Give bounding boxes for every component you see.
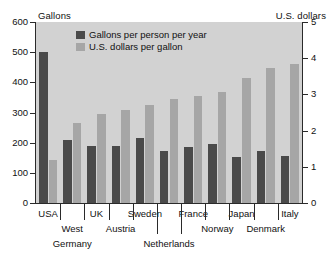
category-label-usa: USA	[38, 209, 58, 219]
gasoline-consumption-price-chart: Gallons U.S. dollars 0100200300400500600…	[0, 0, 330, 265]
bar-gallons-norway	[208, 144, 217, 203]
category-separator	[109, 204, 110, 220]
bar-dollars-usa	[49, 160, 58, 203]
left-tick-500	[30, 52, 35, 53]
category-label-japan: Japan	[229, 209, 255, 219]
right-tick-0	[303, 203, 308, 204]
left-ticklabel-300: 300	[12, 108, 28, 118]
right-ticklabel-5: 5	[311, 17, 316, 27]
legend-label-gallons: Gallons per person per year	[89, 30, 207, 40]
bar-dollars-france	[194, 96, 203, 203]
legend-item-dollars: U.S. dollars per gallon	[76, 41, 207, 52]
right-ticklabel-3: 3	[311, 89, 316, 99]
bar-dollars-denmark	[266, 68, 275, 203]
bar-gallons-west-germany	[63, 140, 72, 203]
category-separator	[254, 204, 255, 220]
right-tick-1	[303, 167, 308, 168]
left-axis-spine	[35, 22, 36, 204]
left-axis-caption: Gallons	[38, 10, 71, 21]
left-tick-100	[30, 173, 35, 174]
bar-gallons-austria	[112, 146, 121, 203]
bar-dollars-italy	[290, 64, 299, 203]
category-label-italy: Italy	[281, 209, 298, 219]
right-tick-5	[303, 22, 308, 23]
bar-gallons-sweden	[136, 138, 145, 203]
bar-gallons-usa	[39, 52, 48, 203]
category-separator	[84, 204, 85, 220]
category-separator	[229, 204, 230, 220]
left-tick-300	[30, 113, 35, 114]
left-tick-400	[30, 82, 35, 83]
category-label-netherlands: Netherlands	[143, 239, 194, 249]
category-separator	[181, 204, 182, 234]
category-label-west: West	[62, 224, 83, 234]
category-label-denmark: Denmark	[246, 224, 285, 234]
left-tick-600	[30, 22, 35, 23]
category-label-austria: Austria	[106, 224, 136, 234]
category-separator	[157, 204, 158, 234]
chart-legend: Gallons per person per year U.S. dollars…	[76, 29, 207, 53]
category-label-france: France	[178, 209, 208, 219]
right-ticklabel-4: 4	[311, 53, 316, 63]
left-ticklabel-600: 600	[12, 17, 28, 27]
legend-label-dollars: U.S. dollars per gallon	[89, 42, 182, 52]
bar-dollars-uk	[97, 114, 106, 203]
left-ticklabel-500: 500	[12, 47, 28, 57]
right-tick-4	[303, 58, 308, 59]
left-tick-200	[30, 143, 35, 144]
bar-gallons-italy	[281, 156, 290, 203]
legend-swatch-dark	[76, 31, 85, 39]
bar-gallons-france	[184, 147, 193, 203]
category-separator	[205, 204, 206, 220]
bar-dollars-west-germany	[73, 123, 82, 203]
legend-item-gallons: Gallons per person per year	[76, 29, 207, 40]
left-ticklabel-200: 200	[12, 138, 28, 148]
right-ticklabel-0: 0	[311, 198, 316, 208]
category-separator	[278, 204, 279, 220]
bar-gallons-denmark	[257, 151, 266, 203]
bar-dollars-japan	[242, 78, 251, 203]
bar-dollars-sweden	[145, 105, 154, 203]
left-ticklabel-400: 400	[12, 77, 28, 87]
bar-gallons-netherlands	[160, 151, 169, 203]
right-tick-3	[303, 94, 308, 95]
right-axis-spine	[302, 22, 303, 204]
legend-swatch-light	[76, 43, 85, 51]
left-tick-0	[30, 203, 35, 204]
left-ticklabel-100: 100	[12, 168, 28, 178]
bar-dollars-austria	[121, 110, 130, 203]
right-ticklabel-1: 1	[311, 162, 316, 172]
category-separator	[133, 204, 134, 220]
bar-dollars-norway	[218, 92, 227, 203]
bar-gallons-japan	[232, 157, 241, 203]
right-ticklabel-2: 2	[311, 126, 316, 136]
bar-dollars-netherlands	[170, 99, 179, 203]
x-axis-baseline	[35, 203, 303, 204]
right-tick-2	[303, 131, 308, 132]
category-separator	[60, 204, 61, 220]
right-axis-caption: U.S. dollars	[276, 10, 326, 21]
left-ticklabel-0: 0	[23, 198, 28, 208]
bar-gallons-uk	[87, 146, 96, 203]
category-label-uk: UK	[90, 209, 103, 219]
category-label-norway: Norway	[201, 224, 233, 234]
category-label-germany: Germany	[53, 239, 92, 249]
